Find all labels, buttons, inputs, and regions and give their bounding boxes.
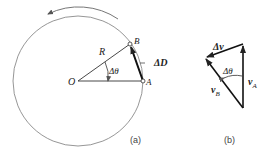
angle-arc xyxy=(105,62,108,81)
label-delta-v: Δv xyxy=(212,41,224,52)
point-b-marker xyxy=(128,42,132,46)
label-o: O xyxy=(68,76,75,87)
figure-b: Δv Δθ vA vB (b) xyxy=(206,41,257,145)
label-b: B xyxy=(134,36,140,46)
label-delta-theta-a: Δθ xyxy=(108,66,119,76)
rotation-direction-arrow xyxy=(48,7,118,19)
label-delta-theta-b: Δθ xyxy=(222,66,233,76)
label-delta-d: ΔD xyxy=(153,57,168,68)
caption-a: (a) xyxy=(130,135,141,145)
kinematics-diagram: O A B R Δθ ΔD (a) Δv Δθ vA vB (b) xyxy=(0,0,267,158)
label-v-b: vB xyxy=(211,84,220,98)
label-r: R xyxy=(98,46,105,57)
point-a-marker xyxy=(141,79,145,83)
label-v-a: vA xyxy=(248,76,257,90)
label-a: A xyxy=(145,77,152,87)
figure-a: O A B R Δθ ΔD (a) xyxy=(13,7,168,146)
caption-b: (b) xyxy=(224,135,235,145)
